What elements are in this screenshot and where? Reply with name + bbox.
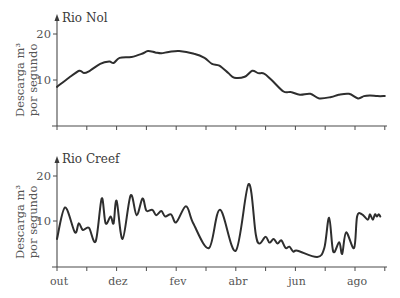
x-tick-label-jun: jun: [286, 275, 306, 288]
chart-figure: 20 10 Rio Nol Descarga m³ por segundo 20…: [0, 0, 400, 298]
y-axis-label-rio-creef: Descarga m³ por segundo: [13, 185, 40, 259]
line-series-rio-creef: [57, 184, 380, 257]
y-tick-label-20: 20: [36, 169, 51, 183]
x-tick-label-dez: dez: [108, 275, 128, 288]
x-tick-label-out: out: [50, 275, 69, 288]
panel-title-rio-nol: Rio Nol: [62, 11, 108, 25]
y-label-line1: Descarga m³: [13, 43, 27, 117]
line-series-rio-nol: [57, 51, 385, 99]
panel-rio-creef: 20 10 Rio Creef Descarga m³ por segundo …: [13, 152, 387, 288]
y-label-line2: por segundo: [26, 186, 40, 259]
x-ticks-rio-creef: [57, 267, 385, 271]
y-axis-arrow-icon: [55, 156, 60, 163]
y-axis-label-rio-nol: Descarga m³ por segundo: [13, 43, 40, 117]
panel-title-rio-creef: Rio Creef: [62, 152, 121, 166]
x-ticks-rio-nol: [57, 126, 385, 130]
y-tick-label-20: 20: [36, 27, 51, 41]
y-axis-arrow-icon: [55, 14, 60, 21]
x-tick-label-ago: ago: [347, 275, 368, 288]
x-tick-label-fev: fev: [170, 275, 188, 288]
panel-rio-nol: 20 10 Rio Nol Descarga m³ por segundo: [13, 11, 387, 130]
y-label-line1: Descarga m³: [13, 185, 27, 259]
y-label-line2: por segundo: [26, 44, 40, 117]
chart-svg: 20 10 Rio Nol Descarga m³ por segundo 20…: [0, 0, 400, 298]
x-tick-label-abr: abr: [229, 275, 249, 288]
